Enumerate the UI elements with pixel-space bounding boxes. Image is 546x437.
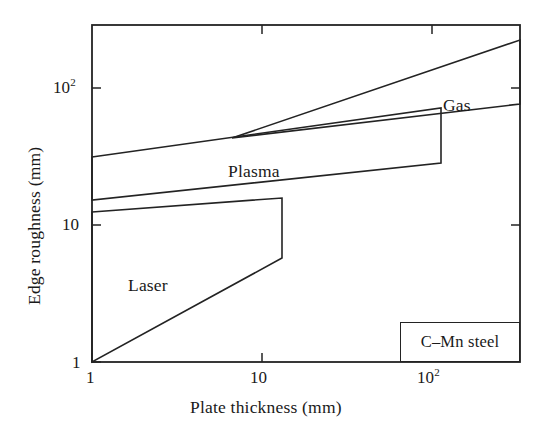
y-tick-label-10: 10	[62, 216, 79, 233]
y-tick-label-100: 102	[53, 79, 76, 96]
plot-canvas	[0, 0, 546, 437]
x-tick-label-100: 102	[417, 369, 440, 386]
x-axis-title: Plate thickness (mm)	[190, 399, 342, 417]
material-annotation-label: C–Mn steel	[421, 332, 500, 352]
y-tick-label-100-exponent: 2	[70, 76, 76, 88]
y-tick-label-1: 1	[72, 354, 81, 371]
laser-region-envelope	[92, 198, 282, 362]
region-label-gas: Gas	[443, 97, 471, 115]
plasma-region-envelope	[92, 108, 441, 200]
x-tick-label-100-exponent: 2	[434, 366, 440, 378]
chart-figure: 1 10 102 1 10 102 Plate thickness (mm) E…	[0, 0, 546, 437]
gas-region-envelope	[232, 40, 520, 138]
y-axis-title: Edge roughness (mm)	[26, 147, 44, 305]
material-annotation-box: C–Mn steel	[400, 322, 520, 362]
region-label-plasma: Plasma	[228, 163, 280, 181]
x-tick-label-100-mantissa: 10	[417, 368, 434, 387]
x-tick-label-1: 1	[86, 369, 95, 386]
y-tick-label-100-mantissa: 10	[53, 78, 70, 97]
region-label-laser: Laser	[128, 277, 168, 295]
x-tick-label-10: 10	[250, 369, 267, 386]
x-axis-ticks	[92, 25, 432, 362]
